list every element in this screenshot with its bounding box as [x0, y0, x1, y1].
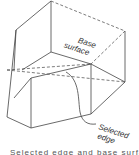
- figure-caption: Selected edge and base surface: [10, 148, 139, 155]
- selected-edge-leader: [66, 72, 96, 124]
- solid-diagram: Base surface Selected edge: [0, 0, 139, 155]
- visible-edges: [7, 1, 125, 128]
